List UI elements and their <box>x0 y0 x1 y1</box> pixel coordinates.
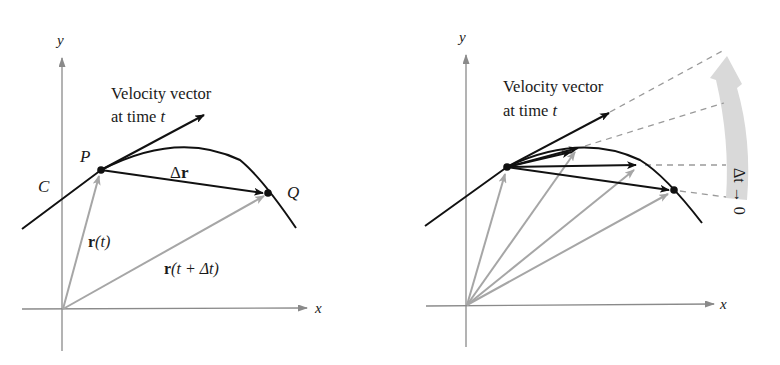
vector-diagram: y x P Q C Velocity vector at time t Δr r… <box>0 0 780 365</box>
right-velocity-label-line1: Velocity vector <box>503 77 604 96</box>
right-dashed-line-2 <box>585 103 724 146</box>
left-label-q: Q <box>287 183 299 202</box>
right-limit-label: Δt → 0 <box>731 168 748 215</box>
left-y-axis-label: y <box>55 32 64 48</box>
left-point-p <box>97 166 105 174</box>
right-position-vector-4 <box>467 194 668 305</box>
left-velocity-label-line1: Velocity vector <box>111 84 212 103</box>
right-secant-vector-4 <box>507 167 669 190</box>
right-point-q <box>670 186 678 194</box>
right-position-vector-1 <box>467 174 505 305</box>
left-label-r-t: r(t) <box>88 233 110 251</box>
left-x-axis-label: x <box>314 300 322 316</box>
right-velocity-vector <box>507 113 609 167</box>
left-vector-r-t-dt <box>63 196 264 309</box>
right-y-axis-label: y <box>457 29 466 45</box>
right-panel: y x Δt → 0 Velocity vector at time t <box>425 29 748 347</box>
right-position-vector-3 <box>467 170 634 305</box>
left-point-q <box>264 189 272 197</box>
right-point-p <box>503 163 511 171</box>
right-x-axis-label: x <box>719 296 727 312</box>
right-dashed-line-1 <box>610 49 726 112</box>
left-panel: y x P Q C Velocity vector at time t Δr r… <box>22 32 322 351</box>
left-curve-c <box>22 147 296 229</box>
left-label-p: P <box>79 147 90 166</box>
right-dashed-line-4 <box>680 191 726 197</box>
right-velocity-label-line2: at time t <box>503 101 557 120</box>
left-velocity-label-line2: at time t <box>111 107 165 126</box>
left-label-delta-r: Δr <box>170 163 189 182</box>
left-label-c: C <box>38 177 50 196</box>
left-label-r-t-dt: r(t + Δt) <box>164 260 219 278</box>
right-secant-vector-3 <box>507 165 636 167</box>
